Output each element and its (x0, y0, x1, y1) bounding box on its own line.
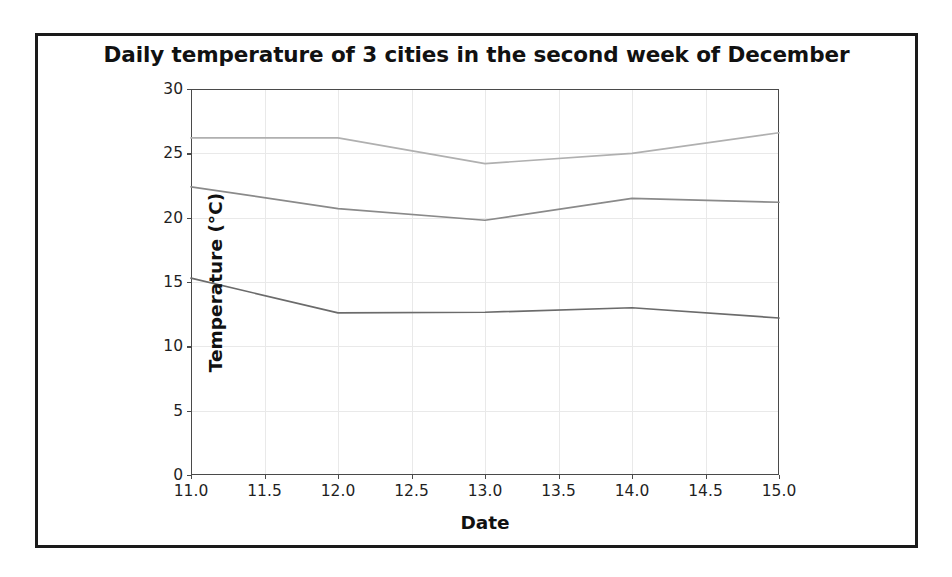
x-axis-tick (265, 475, 266, 479)
x-axis-tick (485, 475, 486, 479)
x-axis-tick-label: 11.5 (247, 482, 282, 500)
y-axis-label-text: Temperature (°C) (205, 192, 226, 371)
x-axis-tick-label: 14.0 (615, 482, 650, 500)
x-axis-tick (632, 475, 633, 479)
x-axis-tick-label: 12.0 (321, 482, 356, 500)
x-axis-tick (338, 475, 339, 479)
x-axis-tick (412, 475, 413, 479)
x-axis-label: Date (191, 512, 779, 533)
x-axis-tick-label: 14.5 (688, 482, 723, 500)
y-axis-label: Temperature (°C) (126, 89, 305, 475)
x-axis-tick (559, 475, 560, 479)
x-axis-tick (779, 475, 780, 479)
figure-frame: Daily temperature of 3 cities in the sec… (35, 33, 918, 548)
chart-title: Daily temperature of 3 cities in the sec… (38, 42, 915, 67)
x-axis-tick-label: 13.0 (468, 482, 503, 500)
x-axis-tick-label: 13.5 (541, 482, 576, 500)
x-axis-tick-label: 15.0 (762, 482, 797, 500)
x-axis-tick (191, 475, 192, 479)
x-axis-tick-label: 11.0 (174, 482, 209, 500)
x-axis-tick-label: 12.5 (394, 482, 429, 500)
x-axis-tick (706, 475, 707, 479)
